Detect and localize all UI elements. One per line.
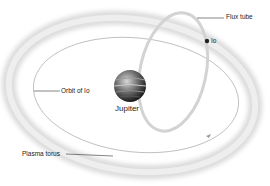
io-label: Io [211, 37, 216, 44]
orbit-of-io-label: Orbit of Io [61, 87, 90, 94]
jupiter-planet [114, 70, 146, 102]
io-moon [205, 39, 209, 43]
plasma-torus-label: Plasma torus [22, 150, 60, 157]
io-plasma-torus-diagram [0, 0, 270, 186]
orbit-direction-arrow-icon [206, 134, 211, 138]
flux-tube-label: Flux tube [226, 13, 253, 20]
jupiter-label: Jupiter [115, 104, 139, 113]
